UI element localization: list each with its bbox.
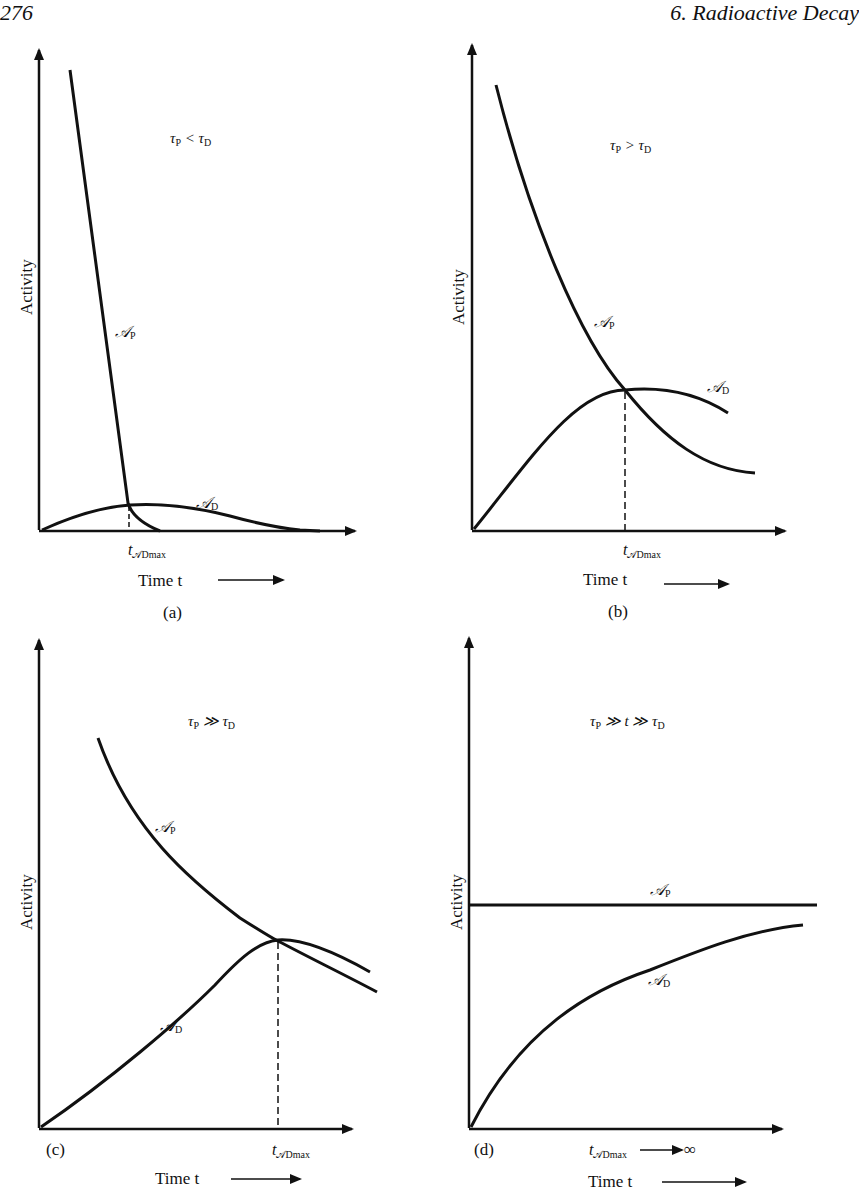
x-axis-label: Time t bbox=[155, 1169, 200, 1188]
ap-label: 𝒜P bbox=[115, 323, 136, 341]
x-axis-label: Time t bbox=[138, 571, 183, 590]
tmax-label: t𝒜Dmax bbox=[128, 541, 166, 560]
y-axis-label: Activity bbox=[17, 874, 36, 930]
panel-a: τP < τD 𝒜P 𝒜D t𝒜Dmax Activity Time t (a) bbox=[17, 50, 355, 622]
condition-label: τP ≫ t ≫ τD bbox=[590, 713, 665, 731]
panel-label: (a) bbox=[163, 603, 182, 622]
tmax-label: t𝒜Dmax bbox=[589, 1141, 627, 1160]
ap-label: 𝒜P bbox=[650, 881, 671, 899]
condition-label: τP < τD bbox=[170, 130, 211, 148]
y-axis-label: Activity bbox=[17, 259, 36, 315]
y-axis-label: Activity bbox=[447, 874, 466, 930]
panel-label: (d) bbox=[474, 1140, 494, 1159]
ad-label: 𝒜D bbox=[707, 378, 729, 396]
condition-label: τP > τD bbox=[610, 137, 651, 155]
x-axis-label: Time t bbox=[588, 1172, 633, 1191]
curve-ad bbox=[41, 940, 370, 1127]
tmax-label: t𝒜Dmax bbox=[272, 1141, 310, 1160]
panel-b: τP > τD 𝒜P 𝒜D t𝒜Dmax Activity Time t (b) bbox=[449, 45, 785, 621]
panel-d: τP ≫ t ≫ τD 𝒜P 𝒜D (d) t𝒜Dmax ∞ Activity … bbox=[447, 638, 817, 1191]
ap-label: 𝒜P bbox=[155, 818, 176, 836]
curve-ap bbox=[70, 70, 160, 531]
condition-label: τP ≫ τD bbox=[188, 713, 235, 731]
infinity-symbol: ∞ bbox=[684, 1140, 696, 1159]
ad-label: 𝒜D bbox=[648, 971, 670, 989]
panel-c: τP ≫ τD 𝒜P 𝒜D t𝒜Dmax (c) Activity Time t bbox=[17, 640, 377, 1188]
tmax-label: t𝒜Dmax bbox=[623, 541, 661, 560]
ap-label: 𝒜P bbox=[594, 313, 615, 331]
panel-label: (c) bbox=[46, 1140, 65, 1159]
panel-label: (b) bbox=[608, 602, 628, 621]
curve-ad bbox=[42, 504, 320, 531]
ad-label: 𝒜D bbox=[196, 494, 218, 512]
curve-ad bbox=[474, 389, 728, 529]
x-axis-label: Time t bbox=[583, 570, 628, 589]
curve-ad bbox=[471, 925, 803, 1127]
y-axis-label: Activity bbox=[449, 269, 468, 325]
